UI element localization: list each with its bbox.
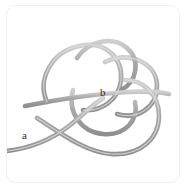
rope-knot-illustration bbox=[7, 6, 180, 183]
rope-label-a: a bbox=[22, 130, 27, 141]
rope-strands bbox=[7, 41, 169, 154]
rope-core bbox=[7, 41, 169, 154]
rope-label-b: b bbox=[100, 87, 106, 98]
figure-card: a b bbox=[6, 5, 180, 183]
